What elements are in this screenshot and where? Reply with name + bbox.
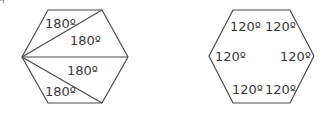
cropped-mark bbox=[0, 0, 4, 3]
hexagon-angle-diagram: 180º 180º 180º 180º 120º 120º 120º 120º … bbox=[0, 0, 327, 125]
left-hexagon: 180º 180º 180º 180º bbox=[22, 10, 128, 103]
angle-label: 180º bbox=[67, 63, 98, 78]
angle-label: 120º bbox=[232, 82, 263, 97]
angle-label: 120º bbox=[215, 49, 246, 64]
angle-label: 120º bbox=[280, 49, 311, 64]
angle-label: 120º bbox=[265, 82, 296, 97]
angle-label: 180º bbox=[45, 16, 76, 31]
angle-label: 180º bbox=[70, 33, 101, 48]
right-hexagon: 120º 120º 120º 120º 120º 120º bbox=[209, 10, 314, 103]
angle-label: 120º bbox=[265, 19, 296, 34]
angle-label: 180º bbox=[45, 84, 76, 99]
angle-label: 120º bbox=[230, 19, 261, 34]
